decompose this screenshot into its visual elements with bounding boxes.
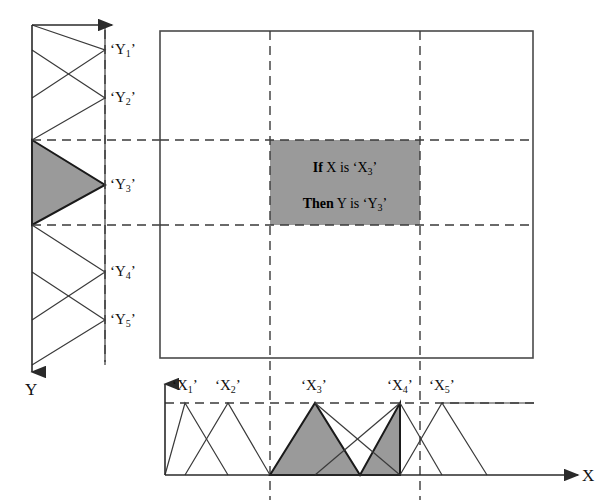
x-triangle-x2 <box>185 403 270 475</box>
y-label-y3: ‘Y3’ <box>110 177 136 192</box>
x-axis-name: X <box>582 466 594 486</box>
y-triangle-y4 <box>32 225 105 320</box>
x-label-x1: ‘X1’ <box>172 378 198 393</box>
figure-canvas <box>0 0 600 504</box>
x-label-x4: ‘X4’ <box>387 378 413 393</box>
x-triangle-x5 <box>400 403 487 475</box>
y-axis-name: Y <box>25 380 37 400</box>
x-label-x2: ‘X2’ <box>215 378 241 393</box>
y-label-y4: ‘Y4’ <box>110 264 136 279</box>
rule-patch <box>270 140 420 225</box>
x-shaded-region <box>270 403 400 475</box>
x-label-x3: ‘X3’ <box>301 378 327 393</box>
x-label-x5: ‘X5’ <box>429 378 455 393</box>
rule-line-2: Then Y is ‘Y3’ <box>270 196 420 212</box>
rule-line-1: If X is ‘X3’ <box>270 160 420 176</box>
fuzzy-rule-figure: ‘Y1’ ‘Y2’ ‘Y3’ ‘Y4’ ‘Y5’ Y ‘X1’ ‘X2’ ‘X3… <box>0 0 600 504</box>
y-membership-panel <box>32 25 160 372</box>
y-triangle-y5 <box>32 272 105 365</box>
y-triangle-y1 <box>32 25 105 98</box>
y-label-y5: ‘Y5’ <box>110 312 136 327</box>
y-shaded-triangle-y3 <box>32 140 105 225</box>
y-label-y2: ‘Y2’ <box>110 90 136 105</box>
y-triangle-y2 <box>32 50 105 140</box>
x-membership-panel <box>165 384 578 475</box>
y-label-y1: ‘Y1’ <box>110 42 136 57</box>
x-triangle-x1 <box>165 403 228 475</box>
